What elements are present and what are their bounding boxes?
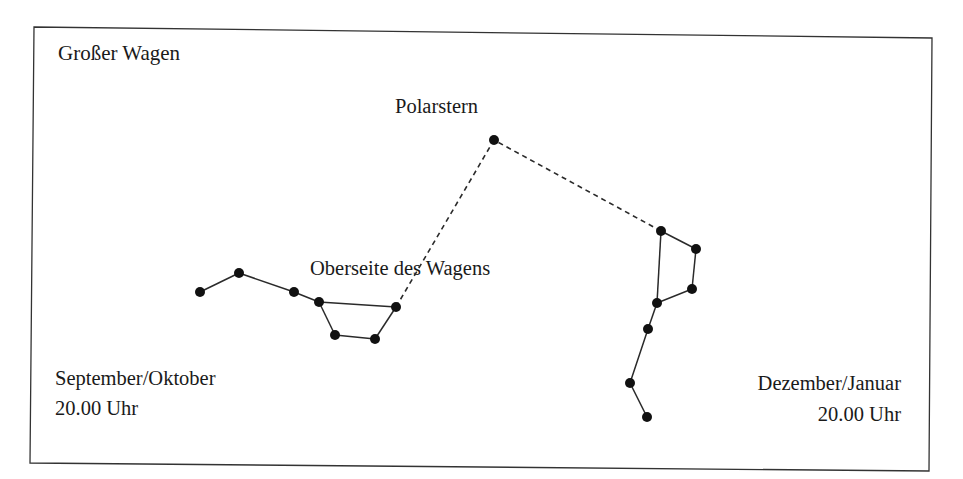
star-dot xyxy=(370,334,380,344)
constellation-edge xyxy=(657,231,661,303)
constellation-edge xyxy=(319,302,396,307)
polaris-label: Polarstern xyxy=(395,95,478,117)
right-time-label: 20.00 Uhr xyxy=(818,403,901,425)
diagram-title: Großer Wagen xyxy=(58,41,181,65)
star-dot xyxy=(643,324,653,334)
star-dot xyxy=(195,287,205,297)
star-dot xyxy=(314,297,324,307)
polaris-pointer-line xyxy=(396,140,494,307)
wagon-top-label: Oberseite des Wagens xyxy=(310,257,490,280)
star-dot xyxy=(289,287,299,297)
star-dot xyxy=(234,268,244,278)
constellation-edge xyxy=(375,307,396,339)
star-dot xyxy=(691,244,701,254)
constellation-edge xyxy=(692,249,696,289)
constellation-edge xyxy=(657,289,692,303)
left-time-label: 20.00 Uhr xyxy=(55,397,138,419)
constellation-edge xyxy=(630,383,647,417)
left-period-label: September/Oktober xyxy=(55,367,216,390)
star-dot xyxy=(330,330,340,340)
star-dot xyxy=(687,284,697,294)
polaris-pointer-lines xyxy=(396,140,661,307)
constellation-edge xyxy=(630,329,648,383)
polaris-pointer-line xyxy=(494,140,661,231)
polaris-star-dot xyxy=(489,135,499,145)
constellation-edge xyxy=(335,335,375,339)
diagram-frame xyxy=(30,27,932,471)
constellation-edge xyxy=(239,273,294,292)
star-dot xyxy=(656,226,666,236)
star-dot xyxy=(642,412,652,422)
constellation-edge xyxy=(661,231,696,249)
right-period-label: Dezember/Januar xyxy=(758,372,902,394)
constellation-edge xyxy=(200,273,239,292)
star-dot xyxy=(625,378,635,388)
star-dot xyxy=(652,298,662,308)
star-dot xyxy=(391,302,401,312)
big-dipper-diagram: Großer Wagen Polarstern Oberseite des Wa… xyxy=(0,0,963,479)
constellation-edge xyxy=(319,302,335,335)
